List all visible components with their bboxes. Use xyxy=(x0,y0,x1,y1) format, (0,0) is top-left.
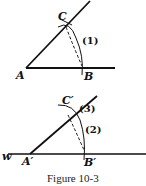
step-label-2: (2) xyxy=(85,124,101,135)
label-w: w xyxy=(2,150,12,163)
label-b: B xyxy=(83,70,93,83)
label-a: A xyxy=(15,69,25,82)
label-a-prime: A′ xyxy=(21,155,34,168)
label-c-prime: C′ xyxy=(62,94,74,107)
label-b-prime: B′ xyxy=(83,156,96,169)
label-c: C xyxy=(58,10,67,23)
step-label-3: (3) xyxy=(79,103,95,114)
dashed-chord-b-prime-c-prime xyxy=(68,115,84,150)
bottom-figure: w A′ B′ C′ (2) (3) xyxy=(2,94,146,169)
figure-caption: Figure 10-3 xyxy=(47,172,99,184)
step-label-1: (1) xyxy=(82,35,98,46)
top-figure: A B C (1) xyxy=(15,1,115,83)
angle-copy-diagram: A B C (1) w A′ B′ C′ (2) (3) Figure 10-3 xyxy=(0,0,146,186)
